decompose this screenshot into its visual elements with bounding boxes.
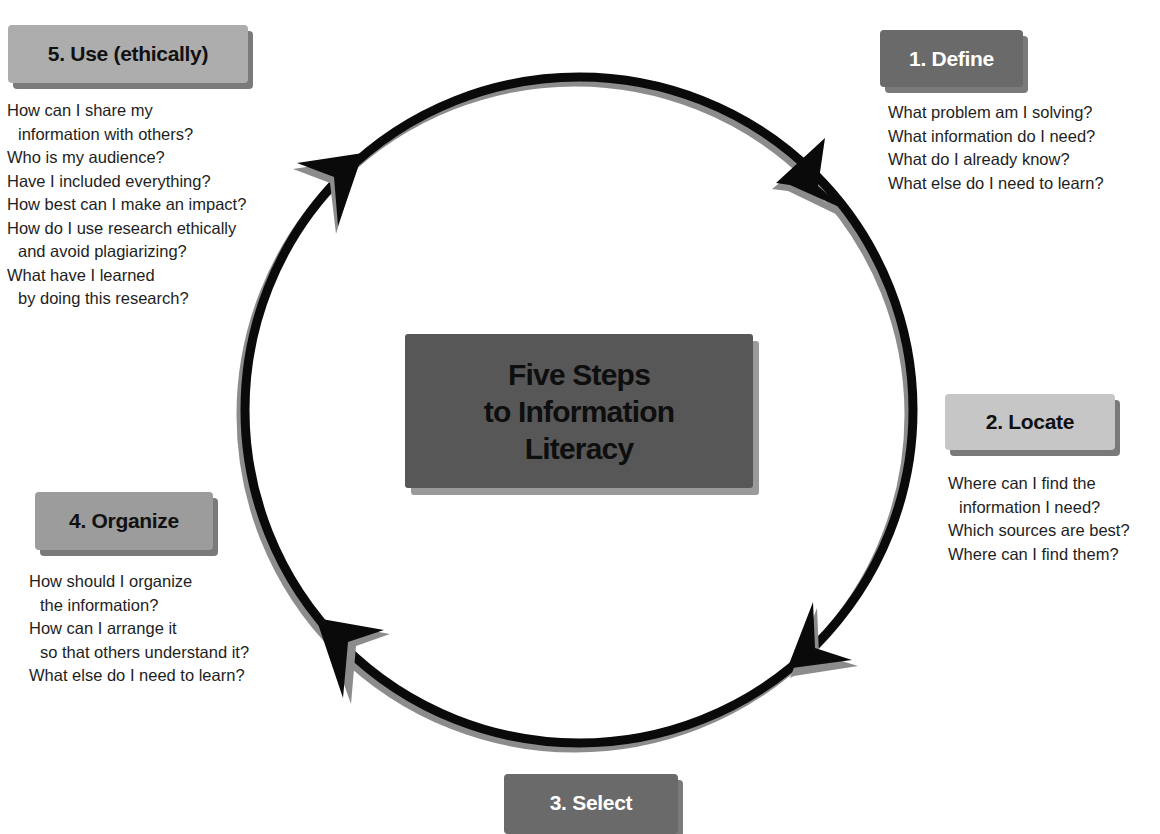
question: Where can I find them? bbox=[948, 543, 1130, 567]
step-define-questions: What problem am I solving? What informat… bbox=[888, 101, 1104, 195]
arrow-icon-organize bbox=[316, 618, 390, 704]
title-line: Five Steps bbox=[508, 356, 650, 393]
question: Who is my audience? bbox=[7, 146, 246, 170]
question: How should I organize bbox=[29, 570, 249, 594]
question: information with others? bbox=[7, 123, 246, 147]
question: How can I share my bbox=[7, 99, 246, 123]
step-label-text: 2. Locate bbox=[986, 410, 1074, 434]
step-use-label: 5. Use (ethically) bbox=[8, 25, 248, 83]
question: Where can I find the bbox=[948, 472, 1130, 496]
step-organize-label: 4. Organize bbox=[35, 492, 213, 550]
question: How best can I make an impact? bbox=[7, 193, 246, 217]
question: What problem am I solving? bbox=[888, 101, 1104, 125]
question: How do I use research ethically bbox=[7, 217, 246, 241]
question: Which sources are best? bbox=[948, 519, 1130, 543]
step-locate-questions: Where can I find the information I need?… bbox=[948, 472, 1130, 566]
step-label-text: 3. Select bbox=[550, 791, 633, 815]
question: How can I arrange it bbox=[29, 617, 249, 641]
question: the information? bbox=[29, 594, 249, 618]
step-label-text: 4. Organize bbox=[69, 509, 179, 533]
question: What information do I need? bbox=[888, 125, 1104, 149]
question: What have I learned bbox=[7, 264, 246, 288]
question: What else do I need to learn? bbox=[888, 172, 1104, 196]
question: Have I included everything? bbox=[7, 170, 246, 194]
question: What else do I need to learn? bbox=[29, 664, 249, 688]
question: by doing this research? bbox=[7, 287, 246, 311]
question: information I need? bbox=[948, 496, 1130, 520]
center-title-box: Five Steps to Information Literacy bbox=[405, 334, 753, 488]
step-define-label: 1. Define bbox=[880, 30, 1023, 87]
title-line: Literacy bbox=[525, 430, 634, 467]
step-label-text: 1. Define bbox=[909, 47, 994, 71]
step-use-questions: How can I share my information with othe… bbox=[7, 99, 246, 311]
title-line: to Information bbox=[484, 393, 674, 430]
question: What do I already know? bbox=[888, 148, 1104, 172]
step-label-text: 5. Use (ethically) bbox=[48, 42, 208, 66]
question: and avoid plagiarizing? bbox=[7, 240, 246, 264]
question: so that others understand it? bbox=[29, 641, 249, 665]
step-organize-questions: How should I organize the information? H… bbox=[29, 570, 249, 688]
step-select-label: 3. Select bbox=[504, 774, 678, 834]
step-locate-label: 2. Locate bbox=[945, 394, 1115, 450]
